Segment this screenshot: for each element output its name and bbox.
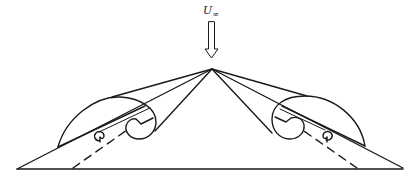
right-secondary-vortex xyxy=(323,132,332,142)
left-wing-outline xyxy=(17,69,212,169)
left-shear-layer xyxy=(58,106,150,147)
freestream-arrow-icon xyxy=(205,22,218,58)
right-shear-layer xyxy=(280,106,365,146)
right-primary-vortex xyxy=(272,96,365,146)
left-secondary-vortex xyxy=(95,132,104,142)
right-vortex-axis-dashed xyxy=(301,129,357,168)
delta-wing-vortex-diagram xyxy=(0,0,416,184)
